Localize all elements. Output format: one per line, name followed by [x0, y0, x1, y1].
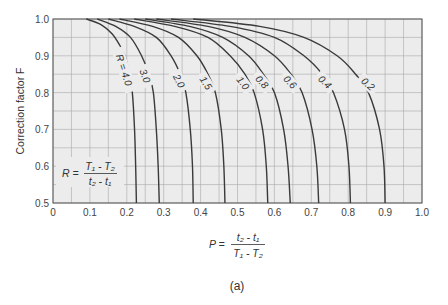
y-tick-label: 0.5: [35, 198, 49, 209]
x-tick-label: 0.2: [120, 207, 134, 218]
y-tick-label: 0.9: [35, 51, 49, 62]
x-tick-label: 0.9: [378, 207, 392, 218]
r-formula-denominator: t₂ - t₁: [89, 175, 112, 187]
x-tick-label: 0.4: [194, 207, 208, 218]
p-formula-numerator: t₂ - t₁: [237, 231, 260, 243]
y-axis-label: Correction factor F: [14, 68, 26, 155]
x-tick-label: 0.3: [157, 207, 171, 218]
x-tick-label: 0.7: [304, 207, 318, 218]
y-tick-label: 0.8: [35, 88, 49, 99]
r-formula-numerator: T₁ - T₂: [85, 160, 114, 172]
x-tick-label: 0.8: [341, 207, 355, 218]
x-tick-label: 0.1: [83, 207, 97, 218]
r-formula-lhs: R =: [62, 167, 79, 179]
correction-factor-chart: R = 4.03.02.01.51.00.80.60.40.2 00.10.20…: [0, 0, 448, 305]
x-tick-label: 0.5: [231, 207, 245, 218]
x-axis-label-formula: P = t₂ - t₁ T₁ - T₂: [209, 231, 265, 259]
x-tick-label: 0: [50, 207, 56, 218]
y-axis-ticks: 0.50.60.70.80.91.0: [35, 14, 49, 209]
r-parameter-formula: R = T₁ - T₂ t₂ - t₁: [56, 157, 124, 187]
x-tick-label: 0.6: [267, 207, 281, 218]
p-formula-lhs: P =: [209, 238, 225, 250]
figure-caption: (a): [230, 279, 245, 293]
x-axis-ticks: 00.10.20.30.40.50.60.70.80.91.0: [50, 207, 429, 218]
y-tick-label: 0.6: [35, 161, 49, 172]
y-tick-label: 0.7: [35, 124, 49, 135]
p-formula-denominator: T₁ - T₂: [233, 247, 262, 259]
x-tick-label: 1.0: [415, 207, 429, 218]
y-tick-label: 1.0: [35, 14, 49, 25]
